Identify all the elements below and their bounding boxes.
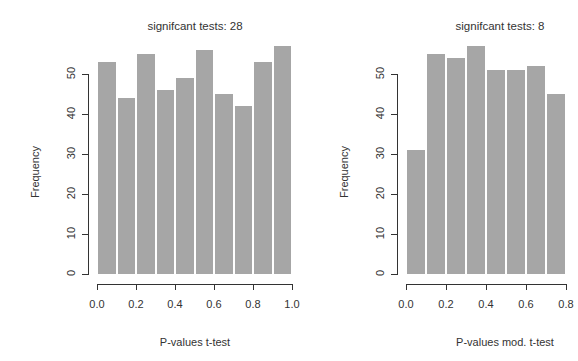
y-tick-label: 40 — [374, 103, 386, 123]
x-axis-label: P-values mod. t-test — [425, 336, 578, 348]
histogram-bar — [487, 70, 505, 274]
chart-title: signifcant tests: 8 — [420, 20, 578, 32]
y-tick — [391, 274, 397, 275]
histogram-bar — [427, 54, 445, 274]
x-tick — [566, 284, 567, 290]
y-tick — [391, 74, 397, 75]
y-tick — [391, 114, 397, 115]
y-tick-label: 30 — [374, 143, 386, 163]
histogram-bar — [467, 46, 485, 274]
y-axis-line — [397, 74, 398, 275]
x-tick-label: 0.2 — [431, 298, 461, 310]
x-tick-label: 0.4 — [471, 298, 501, 310]
x-tick — [446, 284, 447, 290]
histogram-bar — [527, 66, 545, 274]
histogram-bar — [447, 58, 465, 274]
x-tick — [486, 284, 487, 290]
y-tick — [391, 154, 397, 155]
x-tick-label: 0.0 — [391, 298, 421, 310]
histogram-bar — [407, 150, 425, 274]
y-tick — [391, 194, 397, 195]
y-tick-label: 50 — [374, 63, 386, 83]
y-tick-label: 0 — [374, 263, 386, 283]
x-tick-label: 0.6 — [511, 298, 541, 310]
histogram-bar — [507, 70, 525, 274]
x-tick-label: 0.8 — [551, 298, 578, 310]
y-tick-label: 10 — [374, 223, 386, 243]
x-tick — [526, 284, 527, 290]
y-axis-label: Frequency — [338, 122, 350, 222]
x-tick — [406, 284, 407, 290]
y-tick — [391, 234, 397, 235]
y-tick-label: 20 — [374, 183, 386, 203]
histogram-bar — [547, 94, 565, 274]
